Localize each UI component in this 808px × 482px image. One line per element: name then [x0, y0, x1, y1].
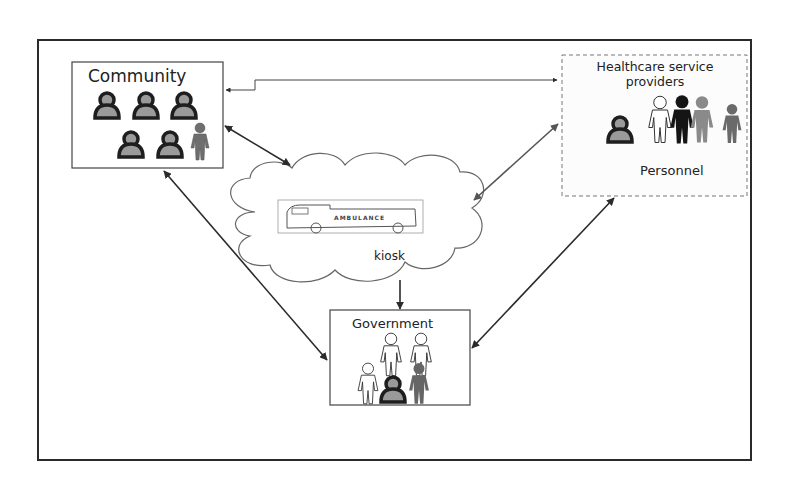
community-title: Community: [88, 66, 186, 86]
healthcare-title: Healthcare service providers: [580, 59, 730, 89]
arrow-community-healthcare: [226, 80, 557, 90]
ambulance-text: AMBULANCE: [334, 214, 385, 221]
arrow-healthcare-government: [472, 198, 614, 348]
kiosk-label: kiosk: [374, 249, 405, 263]
arrow-community-kiosk: [225, 126, 290, 165]
government-title: Government: [352, 316, 433, 331]
arrow-healthcare-kiosk: [474, 124, 558, 200]
personnel-label: Personnel: [640, 163, 704, 178]
